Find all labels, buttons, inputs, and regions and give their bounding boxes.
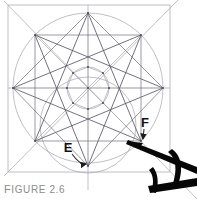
- vertex-dot: [87, 108, 89, 110]
- vertex-dot: [140, 140, 142, 142]
- point-label-e: E: [64, 140, 73, 155]
- figure-caption: FIGURE 2.6: [4, 183, 65, 195]
- vertex-dot: [108, 87, 110, 89]
- vertex-dot: [34, 34, 36, 36]
- vertex-dot: [12, 87, 14, 89]
- vertex-dot: [72, 102, 74, 104]
- vertex-dot: [87, 165, 89, 167]
- vertex-dot: [162, 87, 164, 89]
- geometric-figure: E F: [0, 0, 197, 199]
- vertex-dot: [87, 66, 89, 68]
- vertex-dot: [66, 87, 68, 89]
- vertex-dot: [102, 72, 104, 74]
- center-point: [87, 87, 89, 89]
- vertex-dot: [87, 12, 89, 14]
- vertex-dot: [140, 34, 142, 36]
- figure-page: E F FIGURE 2.6: [0, 0, 197, 199]
- point-label-f: F: [141, 115, 149, 130]
- vertex-dot: [102, 102, 104, 104]
- figure-caption-text: IGURE 2.6: [11, 184, 65, 195]
- vertex-dot: [72, 72, 74, 74]
- vertex-dot: [34, 140, 36, 142]
